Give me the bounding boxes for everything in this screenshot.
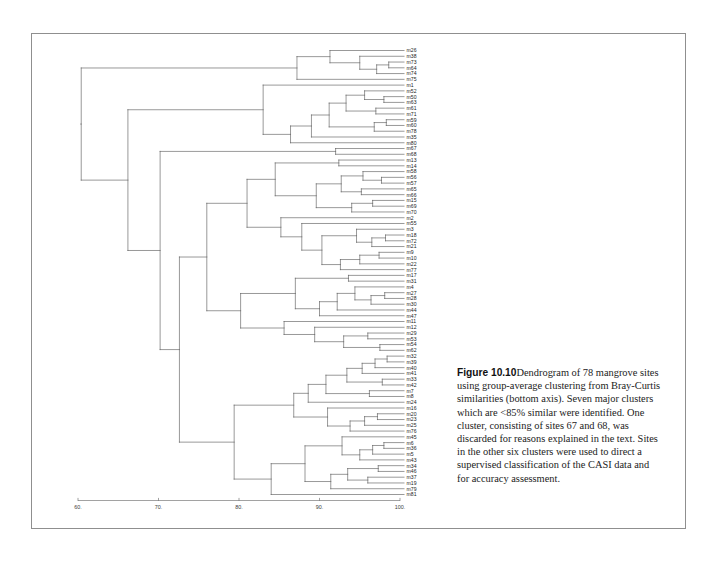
figure-number: Figure 10.10 [457, 367, 516, 378]
figure-caption: Figure 10.10Dendrogram of 78 mangrove si… [457, 366, 662, 485]
axis-tick-label: 60. [74, 504, 82, 510]
axis-tick-label: 100. [395, 504, 406, 510]
leaf-label: m81 [407, 491, 417, 497]
leaf-label-group: m26m38m73m64m74m75m1m52m50m63m61m71m59m6… [407, 47, 417, 497]
dendrogram-branches [81, 51, 404, 495]
axis-tick-label: 90. [316, 504, 324, 510]
axis-tick-label: 80. [235, 504, 243, 510]
caption-body: Dendrogram of 78 mangrove sites using gr… [457, 367, 660, 484]
x-axis: 60.70.80.90.100. [74, 498, 405, 510]
axis-tick-label: 70. [155, 504, 163, 510]
